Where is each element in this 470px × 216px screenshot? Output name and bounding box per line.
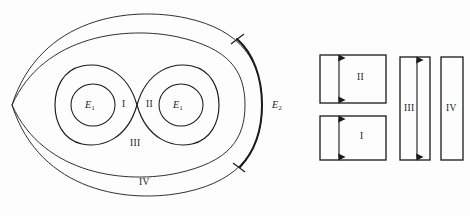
rect-I-outline (320, 116, 386, 160)
label-rect-ii: II (357, 73, 364, 83)
label-region-iii: III (130, 139, 140, 149)
figure-canvas: E1 E1 E2 I II III IV II I III IV (0, 0, 470, 216)
label-rect-iv: IV (446, 104, 457, 114)
rect-II-outline (320, 55, 386, 103)
label-e1-left: E1 (85, 100, 94, 110)
label-region-i: I (122, 100, 125, 110)
middle-oval-iii (12, 33, 245, 177)
label-e2-outer: E2 (272, 100, 281, 110)
label-rect-iii: III (404, 104, 414, 114)
right-diagram-shapes (320, 55, 463, 160)
e1-right-subscript: 1 (179, 104, 182, 111)
label-region-ii: II (146, 100, 153, 110)
label-e1-right: E1 (173, 100, 182, 110)
bold-arc-e2 (237, 39, 262, 167)
e1-left-subscript: 1 (91, 104, 94, 111)
left-diagram-curves (12, 14, 262, 196)
label-rect-i: I (360, 132, 363, 142)
label-region-iv: IV (139, 178, 150, 188)
figure-vector-layer (0, 0, 470, 216)
e2-subscript: 2 (278, 104, 281, 111)
